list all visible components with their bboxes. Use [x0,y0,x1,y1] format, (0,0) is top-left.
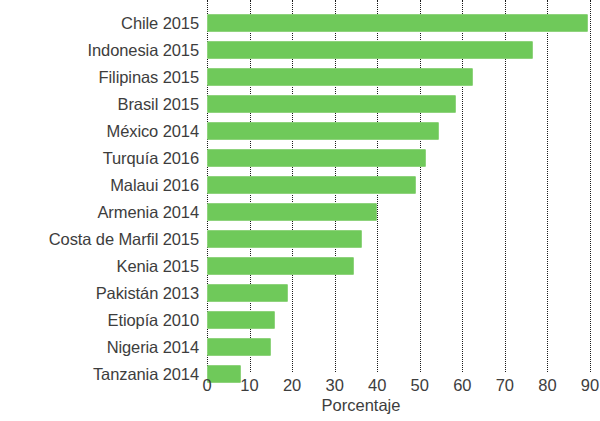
category-label: Filipinas 2015 [99,68,199,86]
x-tick-label: 0 [202,374,211,396]
x-tick-label: 90 [581,374,599,396]
plot-area [207,0,594,380]
bar [207,149,426,167]
category-label: Brasil 2015 [118,95,199,113]
bar [207,203,377,221]
bar [207,122,439,140]
x-tick-label: 70 [496,374,514,396]
category-label: Etiopía 2010 [108,311,199,329]
x-tick-label: 40 [368,374,386,396]
x-axis-title: Porcentaje [0,396,600,415]
category-label: Armenia 2014 [97,203,199,221]
category-label: Kenia 2015 [117,257,200,275]
x-tick-label: 30 [325,374,343,396]
bar [207,41,533,59]
category-label: Chile 2015 [121,14,199,32]
bar [207,14,588,32]
x-tick-label: 20 [283,374,301,396]
category-label: Nigeria 2014 [107,338,199,356]
category-label: México 2014 [107,122,199,140]
category-label: Costa de Marfil 2015 [49,230,199,248]
x-tick-label: 60 [453,374,471,396]
x-tick-label: 80 [538,374,556,396]
bar [207,338,271,356]
bar [207,176,416,194]
horizontal-bar-chart: Chile 2015Indonesia 2015Filipinas 2015Br… [0,0,600,421]
x-tick-label: 10 [240,374,258,396]
category-label: Tanzania 2014 [93,365,199,383]
x-axis-title-text: Porcentaje [322,396,401,414]
category-label: Turquía 2016 [103,149,199,167]
bar [207,257,354,275]
bar [207,311,275,329]
category-labels-axis: Chile 2015Indonesia 2015Filipinas 2015Br… [0,0,203,380]
bar [207,230,362,248]
x-tick-label: 50 [411,374,429,396]
category-label: Pakistán 2013 [96,284,199,302]
bar [207,95,456,113]
gridline [590,0,591,372]
category-label: Indonesia 2015 [88,41,199,59]
category-label: Malaui 2016 [110,176,199,194]
gridline [547,0,548,372]
bar [207,68,473,86]
bar [207,284,288,302]
